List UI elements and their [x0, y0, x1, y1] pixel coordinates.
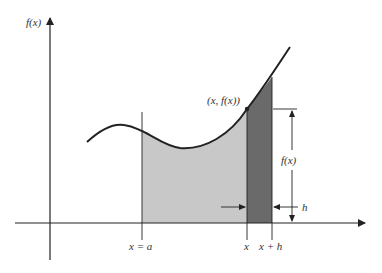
area-strip-x-to-x-plus-h — [247, 77, 272, 223]
point-label: (x, f(x)) — [207, 94, 240, 107]
x-equals-a-label: x = a — [128, 240, 153, 252]
y-axis-label: f(x) — [26, 16, 42, 29]
x-plus-h-tick-label: x + h — [258, 240, 283, 252]
x-tick-label: x — [243, 240, 249, 252]
width-dim-label: h — [302, 201, 308, 213]
point-x-fx — [245, 107, 249, 111]
area-region-a-to-x — [142, 109, 247, 223]
height-dim-label: f(x) — [281, 154, 297, 167]
area-function-diagram: f(x) (x, f(x)) x = a x x + h f(x) h — [0, 0, 382, 273]
